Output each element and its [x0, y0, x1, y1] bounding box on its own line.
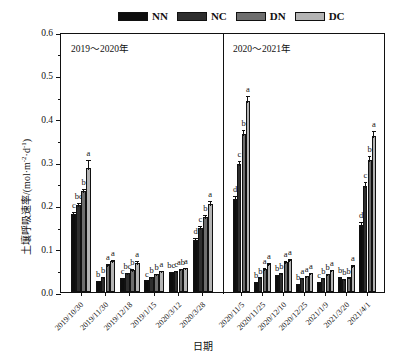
legend-label-dc: DC [329, 11, 345, 22]
y-tick-label: 0.0 [25, 288, 53, 298]
legend-swatch-nc [177, 12, 207, 21]
x-tick [346, 292, 347, 296]
y-tick-major [56, 294, 61, 295]
x-tick [262, 292, 263, 296]
y-tick-label: 0.6 [25, 28, 53, 38]
significance-letter: a [367, 120, 381, 129]
x-tick [129, 292, 130, 296]
x-tick [81, 292, 82, 296]
x-axis-title: 日期 [193, 338, 213, 353]
bar-dc [372, 136, 376, 292]
x-tick [202, 292, 203, 296]
legend-label-nc: NC [211, 11, 227, 22]
y-tick-label: 0.5 [25, 71, 53, 81]
chart-legend: NNNCDNDC [118, 9, 386, 23]
legend-item-dc: DC [295, 11, 345, 22]
x-tick [367, 292, 368, 296]
x-tick [154, 292, 155, 296]
y-tick-label: 0.4 [25, 115, 53, 125]
chart-figure: NNNCDNDC 2019～2020年 2020～2021年 cbcbabbaa… [0, 0, 401, 358]
legend-label-nn: NN [152, 11, 168, 22]
error-bar-cap [372, 131, 376, 132]
legend-item-nn: NN [118, 11, 168, 22]
x-tick [241, 292, 242, 296]
x-tick [178, 292, 179, 296]
legend-swatch-dn [236, 12, 266, 21]
plot-area: 2019～2020年 2020～2021年 cbcbabbaacbcbacbba… [60, 33, 385, 293]
y-axis-title: 土壤呼吸速率/(mol·m-2·d-1) [18, 139, 33, 255]
error-bar [373, 131, 374, 138]
bar-group: dcba [61, 34, 386, 292]
legend-item-dn: DN [236, 11, 286, 22]
x-tick [105, 292, 106, 296]
y-tick-label: 0.2 [25, 201, 53, 211]
legend-swatch-nn [118, 12, 148, 21]
x-tick [304, 292, 305, 296]
x-tick [325, 292, 326, 296]
y-tick-label: 0.3 [25, 158, 53, 168]
legend-swatch-dc [295, 12, 325, 21]
x-tick [283, 292, 284, 296]
y-tick-label: 0.1 [25, 245, 53, 255]
legend-label-dn: DN [270, 11, 286, 22]
legend-item-nc: NC [177, 11, 227, 22]
